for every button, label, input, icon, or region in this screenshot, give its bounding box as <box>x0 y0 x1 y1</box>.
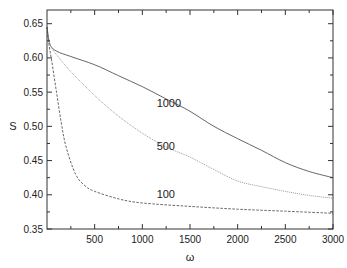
y-axis-label: S <box>9 120 16 132</box>
plot-curves <box>47 27 333 213</box>
x-axis-ticks: 50010001500200025003000 <box>71 10 345 245</box>
curve-label-100: 100 <box>157 188 175 200</box>
x-tick-label: 2000 <box>227 234 250 245</box>
curve-100 <box>47 27 333 213</box>
y-tick-label: 0.60 <box>24 52 44 63</box>
y-tick-label: 0.45 <box>24 155 44 166</box>
curve-labels: 1000500100 <box>157 97 181 200</box>
y-tick-label: 0.65 <box>24 18 44 29</box>
chart-canvas: 1000500100 50010001500200025003000 0.350… <box>0 0 347 268</box>
y-tick-label: 0.40 <box>24 189 44 200</box>
y-axis-ticks: 0.350.400.450.500.550.600.65 <box>24 18 333 234</box>
y-tick-label: 0.55 <box>24 87 44 98</box>
curve-label-500: 500 <box>157 140 175 152</box>
curve-500 <box>47 27 333 198</box>
y-tick-label: 0.35 <box>24 224 44 235</box>
curve-1000 <box>47 27 333 178</box>
x-tick-label: 1500 <box>179 234 202 245</box>
x-axis-label: ω <box>186 251 195 263</box>
x-tick-label: 1000 <box>131 234 154 245</box>
y-tick-label: 0.50 <box>24 121 44 132</box>
x-tick-label: 3000 <box>322 234 345 245</box>
plot-frame <box>47 10 333 229</box>
curve-label-1000: 1000 <box>157 97 181 109</box>
x-tick-label: 2500 <box>274 234 297 245</box>
line-chart: 1000500100 50010001500200025003000 0.350… <box>0 0 347 268</box>
x-tick-label: 500 <box>86 234 103 245</box>
